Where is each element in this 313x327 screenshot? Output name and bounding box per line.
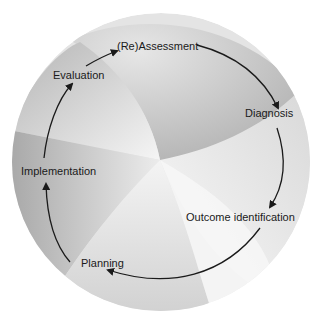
step-label-planning: Planning bbox=[81, 257, 124, 269]
nursing-process-cycle-diagram: (Re)Assessment Diagnosis Outcome identif… bbox=[0, 0, 313, 327]
step-label-implementation: Implementation bbox=[21, 165, 96, 177]
step-label-evaluation: Evaluation bbox=[53, 69, 104, 81]
step-label-assessment: (Re)Assessment bbox=[117, 40, 198, 52]
step-label-outcome-identification: Outcome identification bbox=[186, 211, 295, 223]
step-label-diagnosis: Diagnosis bbox=[245, 107, 294, 119]
